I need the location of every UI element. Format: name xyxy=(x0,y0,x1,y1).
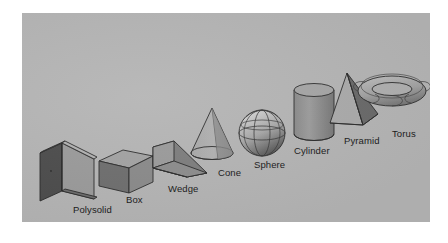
shape-sphere xyxy=(239,110,285,156)
shape-box xyxy=(99,150,153,193)
shape-cone xyxy=(191,108,233,160)
label-cylinder: Cylinder xyxy=(294,146,330,156)
label-cone: Cone xyxy=(218,168,241,178)
shape-cylinder xyxy=(294,84,334,141)
solids-scene xyxy=(22,13,430,222)
figure-root: Polysolid Box Wedge Cone Sphere Cylinder… xyxy=(0,0,448,243)
shape-polysolid xyxy=(40,141,97,201)
label-polysolid: Polysolid xyxy=(73,205,112,215)
label-torus: Torus xyxy=(392,129,416,139)
label-wedge: Wedge xyxy=(168,184,198,194)
label-pyramid: Pyramid xyxy=(344,136,380,146)
label-sphere: Sphere xyxy=(254,160,285,170)
label-box: Box xyxy=(126,195,143,205)
illustration-panel: Polysolid Box Wedge Cone Sphere Cylinder… xyxy=(22,13,430,222)
